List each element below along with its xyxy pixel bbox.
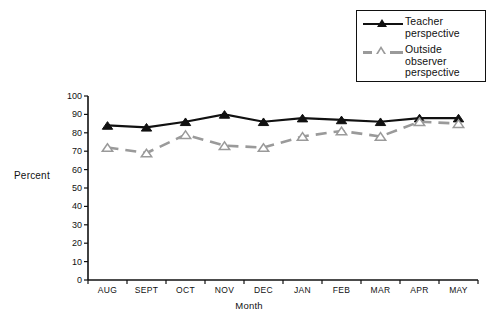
- y-tick-label: 50: [56, 183, 82, 193]
- y-tick-label: 0: [56, 275, 82, 285]
- y-tick-label: 10: [56, 257, 82, 267]
- y-tick-label: 60: [56, 165, 82, 175]
- x-tick-label: MAR: [371, 285, 391, 295]
- legend-label-outside-line3: perspective: [405, 67, 460, 79]
- marker-triangle-open-icon: [180, 131, 190, 139]
- y-tick-label: 40: [56, 201, 82, 211]
- y-tick-label: 70: [56, 146, 82, 156]
- legend-label-teacher-line1: Teacher: [405, 16, 460, 28]
- series-line: [108, 114, 459, 127]
- x-tick-label: NOV: [215, 285, 234, 295]
- y-axis-tick-labels: 0102030405060708090100: [56, 0, 82, 326]
- x-tick-label: JAN: [294, 285, 311, 295]
- data-series-layer: [102, 111, 463, 157]
- y-tick-label: 20: [56, 238, 82, 248]
- chart-legend: Teacher perspective Outside observer per…: [356, 10, 486, 82]
- series-outside-observer: [102, 118, 463, 157]
- y-tick-label: 30: [56, 220, 82, 230]
- legend-label-teacher: Teacher perspective: [405, 16, 460, 39]
- x-tick-label: DEC: [254, 285, 273, 295]
- legend-entry-outside-observer: Outside observer perspective: [363, 44, 479, 79]
- x-tick-label: APR: [410, 285, 428, 295]
- x-tick-label: SEPT: [135, 285, 158, 295]
- x-axis-title: Month: [0, 300, 498, 311]
- y-tick-label: 100: [56, 91, 82, 101]
- legend-label-teacher-line2: perspective: [405, 28, 460, 40]
- y-tick-label: 90: [56, 109, 82, 119]
- series-teacher: [102, 111, 463, 131]
- legend-label-outside-observer: Outside observer perspective: [405, 44, 460, 79]
- y-axis-title: Percent: [14, 170, 50, 181]
- legend-entry-teacher: Teacher perspective: [363, 16, 479, 39]
- line-chart-figure: 0102030405060708090100 AUGSEPTOCTNOVDECJ…: [0, 0, 498, 326]
- legend-key-dashed-triangle-icon: [363, 45, 405, 58]
- legend-key-solid-triangle-icon: [363, 17, 405, 30]
- x-tick-label: MAY: [449, 285, 468, 295]
- legend-label-outside-line1: Outside: [405, 44, 460, 56]
- y-tick-label: 80: [56, 128, 82, 138]
- x-tick-label: OCT: [176, 285, 195, 295]
- x-tick-label: AUG: [98, 285, 117, 295]
- x-tick-label: FEB: [333, 285, 350, 295]
